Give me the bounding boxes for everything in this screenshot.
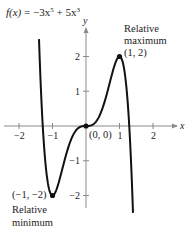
- y-tick-label: −1: [69, 155, 80, 166]
- x-tick-label: 1: [118, 130, 123, 141]
- x-tick-label: 2: [151, 130, 156, 141]
- x-tick-label: −1: [48, 130, 59, 141]
- origin-label: (0, 0): [89, 129, 112, 141]
- min-annotation: (−1, −2) Relative minimum: [12, 189, 53, 228]
- chart-title: f(x) = −3x5 + 5x3: [6, 6, 80, 19]
- y-tick-label: 2: [75, 51, 80, 62]
- point-marker: [50, 193, 55, 198]
- y-tick-label: −2: [69, 190, 80, 201]
- point-marker: [117, 54, 122, 59]
- y-tick-label: 1: [75, 86, 80, 97]
- x-axis-label: x: [179, 120, 185, 131]
- point-marker: [83, 123, 88, 128]
- max-annotation: Relative maximum (1, 2): [124, 23, 169, 59]
- y-axis-label: y: [82, 15, 88, 26]
- function-graph: f(x) = −3x5 + 5x3 x y −2−112−2−112 Relat…: [0, 0, 189, 235]
- x-tick-label: −2: [14, 130, 25, 141]
